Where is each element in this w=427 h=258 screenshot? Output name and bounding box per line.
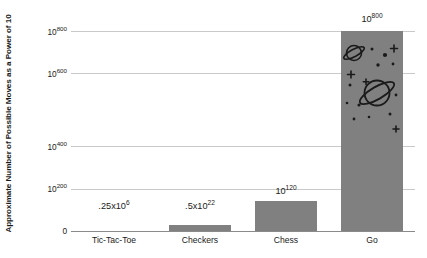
star-sparkle-icon <box>348 45 400 132</box>
ringed-planet-small-icon <box>342 44 366 61</box>
bar-checkers[interactable] <box>169 225 231 231</box>
x-axis-line <box>71 231 415 232</box>
bar-value-label-go: 10800 <box>331 15 413 24</box>
y-tick-label: 10400 <box>5 143 67 151</box>
bar-value-label-chess: 10120 <box>245 187 327 196</box>
dot-star-icon <box>346 48 398 121</box>
ringed-planet-large-icon <box>357 78 397 108</box>
bar-value-label-tic-tac-toe: .25x106 <box>73 202 155 211</box>
x-tick-label-chess: Chess <box>245 236 327 245</box>
x-tick-label-tic-tac-toe: Tic-Tac-Toe <box>73 236 155 245</box>
y-tick-label: 10800 <box>5 28 67 36</box>
y-tick-label: 0 <box>5 227 67 235</box>
y-axis-ticks: 0 10200 10400 10600 10800 <box>0 12 67 232</box>
bar-chess[interactable] <box>255 201 317 231</box>
y-tick-label: 10600 <box>5 70 67 78</box>
bar-chart: Approximate Number of Possible Moves as … <box>0 0 427 258</box>
x-tick-label-go: Go <box>331 236 413 245</box>
bar-go[interactable] <box>341 31 403 231</box>
y-tick-label: 10200 <box>5 185 67 193</box>
space-illustration <box>341 31 403 231</box>
plot-area: .25x106 .5x1022 10120 <box>71 12 415 232</box>
x-axis-ticks: Tic-Tac-Toe Checkers Chess Go <box>71 236 415 254</box>
bar-value-label-checkers: .5x1022 <box>159 202 241 211</box>
x-tick-label-checkers: Checkers <box>159 236 241 245</box>
